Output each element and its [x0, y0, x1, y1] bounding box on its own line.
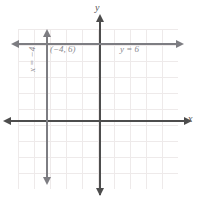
- vertical-line-arrow-up-icon: [43, 29, 51, 37]
- horizontal-line-arrow-right-icon: [176, 40, 184, 48]
- horizontal-line-y-equals-6: [14, 43, 179, 45]
- coordinate-grid: [18, 29, 178, 189]
- y-axis-arrow-down-icon: [96, 188, 104, 196]
- x-axis-label: x: [188, 114, 192, 124]
- graph-figure: (−4, 6) y = 6 x = −4 y x: [0, 0, 199, 202]
- vertical-line-x-equals-minus-4: [46, 32, 48, 180]
- y-axis-arrow-up-icon: [96, 14, 104, 22]
- y-axis-label: y: [95, 3, 99, 13]
- x-axis: [6, 120, 186, 122]
- vertical-line-label: x = −4: [28, 47, 37, 72]
- intersection-point-label: (−4, 6): [50, 45, 76, 54]
- x-axis-arrow-left-icon: [3, 117, 11, 125]
- horizontal-line-arrow-left-icon: [11, 40, 19, 48]
- horizontal-line-label: y = 6: [120, 45, 139, 54]
- vertical-line-arrow-down-icon: [43, 177, 51, 185]
